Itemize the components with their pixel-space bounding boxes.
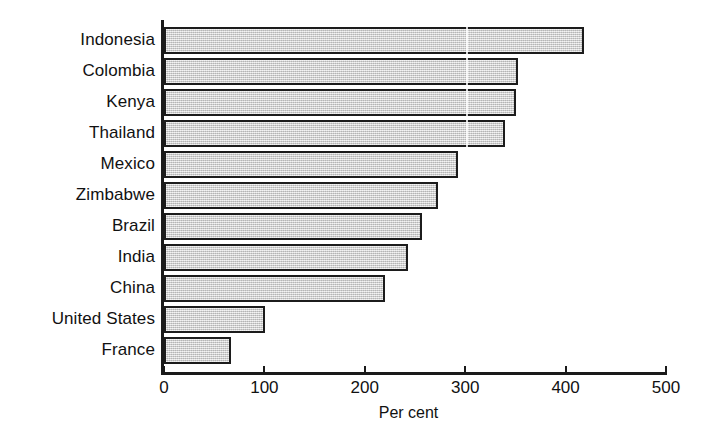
category-axis-labels: IndonesiaColombiaKenyaThailandMexicoZimb…	[0, 22, 155, 372]
category-label: Colombia	[0, 61, 155, 81]
x-tick-label: 200	[335, 378, 395, 398]
x-tick-label: 500	[636, 378, 696, 398]
bar-row	[164, 27, 666, 54]
bar	[164, 337, 231, 364]
x-tick-mark	[163, 366, 165, 375]
plot-area	[164, 22, 666, 372]
bars-layer	[164, 22, 666, 372]
bar	[164, 213, 422, 240]
x-tick-label: 0	[134, 378, 194, 398]
bar	[164, 306, 265, 333]
category-label: Brazil	[0, 216, 155, 236]
bar	[164, 120, 505, 147]
category-label: Indonesia	[0, 30, 155, 50]
bar	[164, 244, 408, 271]
x-tick-label: 400	[536, 378, 596, 398]
bar	[164, 89, 516, 116]
bar-row	[164, 151, 666, 178]
bar-row	[164, 337, 666, 364]
bar-row	[164, 244, 666, 271]
bar-row	[164, 182, 666, 209]
category-label: United States	[0, 309, 155, 329]
x-tick-label: 100	[234, 378, 294, 398]
category-label: France	[0, 340, 155, 360]
category-label: China	[0, 278, 155, 298]
x-tick-mark	[464, 366, 466, 375]
bar-row	[164, 120, 666, 147]
category-label: Mexico	[0, 154, 155, 174]
bar	[164, 151, 458, 178]
x-axis-line	[161, 372, 667, 375]
x-tick-mark	[665, 366, 667, 375]
bar	[164, 182, 438, 209]
scan-artifact	[466, 22, 468, 166]
bar	[164, 275, 385, 302]
bar-row	[164, 89, 666, 116]
bar-row	[164, 213, 666, 240]
x-axis-title-text: Per cent	[379, 404, 439, 421]
bar-row	[164, 306, 666, 333]
bar	[164, 27, 584, 54]
x-tick-mark	[263, 366, 265, 375]
category-label: Zimbabwe	[0, 185, 155, 205]
x-axis-title: Per cent	[0, 404, 707, 422]
category-label: Kenya	[0, 92, 155, 112]
bar-row	[164, 275, 666, 302]
category-label: Thailand	[0, 123, 155, 143]
x-tick-label: 300	[435, 378, 495, 398]
bar-row	[164, 58, 666, 85]
x-tick-mark	[364, 366, 366, 375]
category-label: India	[0, 247, 155, 267]
bar-chart: IndonesiaColombiaKenyaThailandMexicoZimb…	[0, 0, 707, 445]
x-tick-mark	[565, 366, 567, 375]
